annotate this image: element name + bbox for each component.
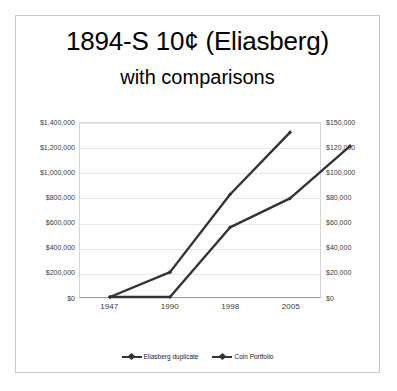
y-axis-left-tick-label: $1,200,000 [40,144,75,151]
diamond-marker-icon [122,353,142,360]
x-axis-tick-label: 1947 [100,303,118,311]
series-lines [80,123,320,297]
x-axis-tick-label: 1998 [221,303,239,311]
y-axis-left-tick-label: $1,000,000 [40,169,75,176]
chart-title: 1894-S 10¢ (Eliasberg) [16,26,379,57]
chart-legend: Eliasberg duplicate Coin Portfolio [16,353,379,360]
y-axis-right-tick-label: $80,000 [326,194,351,201]
y-axis-left-tick-label: $800,000 [46,194,75,201]
chart-card: 1894-S 10¢ (Eliasberg) with comparisons … [15,15,380,373]
legend-item-eliasberg-duplicate[interactable]: Eliasberg duplicate [122,353,199,360]
y-axis-right-tick-label: $40,000 [326,244,351,251]
x-axis-tick-label: 1990 [161,303,179,311]
y-axis-left-tick-label: $600,000 [46,219,75,226]
series-line [110,132,290,297]
y-axis-right-tick-label: $20,000 [326,269,351,276]
y-axis-right-tick-label: $100,000 [326,169,355,176]
x-axis-tick-label: 2005 [282,303,300,311]
legend-label: Eliasberg duplicate [144,353,199,360]
y-axis-left-tick-label: $1,400,000 [40,119,75,126]
plot-area [79,122,321,298]
plot-wrap: $0$200,000$400,000$600,000$800,000$1,000… [79,108,321,298]
legend-label: Coin Portfolio [234,353,273,360]
y-axis-right-tick-label: $150,000 [326,119,355,126]
series-line [110,146,350,297]
y-axis-left-tick-label: $400,000 [46,244,75,251]
y-axis-left-tick-label: $200,000 [46,269,75,276]
diamond-marker-icon [212,353,232,360]
y-axis-left-tick-label: $0 [67,295,75,302]
y-axis-right-tick-label: $0 [326,295,334,302]
y-axis-right-tick-label: $60,000 [326,219,351,226]
y-axis-right-tick-label: $120,000 [326,144,355,151]
legend-item-coin-portfolio[interactable]: Coin Portfolio [212,353,273,360]
chart-subtitle: with comparisons [16,66,379,89]
